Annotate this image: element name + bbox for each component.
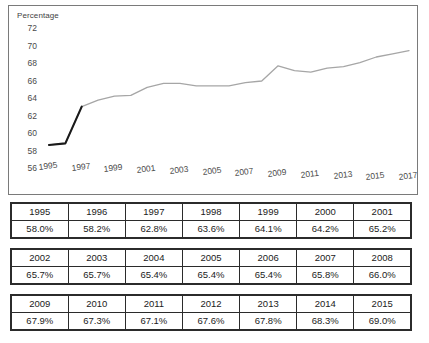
table-cell-year: 2002 [11,249,68,267]
table-cell-value: 65.2% [354,221,411,239]
table-cell-year: 2014 [297,295,354,313]
table-cell-year: 1996 [68,203,125,221]
table-cell-value: 65.8% [297,267,354,285]
table-cell-year: 2007 [297,249,354,267]
table-cell-value: 66.0% [354,267,411,285]
table-row-values: 67.9%67.3%67.1%67.6%67.8%68.3%69.0% [11,313,411,331]
table-cell-year: 2011 [125,295,182,313]
table-cell-year: 2005 [182,249,239,267]
chart-panel: Percentage 727068666462605856 1995199719… [8,5,418,195]
table-cell-year: 1999 [240,203,297,221]
line-chart-plot [9,6,419,196]
table-row-values: 65.7%65.7%65.4%65.4%65.4%65.8%66.0% [11,267,411,285]
data-table-block-2: 2002200320042005200620072008 65.7%65.7%6… [10,248,412,285]
table-cell-value: 64.2% [297,221,354,239]
table-cell-year: 1997 [125,203,182,221]
table-cell-year: 2012 [182,295,239,313]
table-cell-year: 2009 [11,295,68,313]
table-cell-year: 2000 [297,203,354,221]
table-cell-year: 2004 [125,249,182,267]
table-row-years: 2009201020112012201320142015 [11,295,411,313]
table-cell-value: 67.3% [68,313,125,331]
table-cell-year: 2015 [354,295,411,313]
table-cell-value: 67.1% [125,313,182,331]
table-cell-value: 64.1% [240,221,297,239]
table-cell-year: 2010 [68,295,125,313]
table-cell-value: 58.2% [68,221,125,239]
table-cell-value: 67.9% [11,313,68,331]
table-cell-value: 65.4% [125,267,182,285]
table-cell-value: 68.3% [297,313,354,331]
table-cell-value: 65.7% [11,267,68,285]
table-cell-year: 2008 [354,249,411,267]
table-cell-year: 2001 [354,203,411,221]
table-row-values: 58.0%58.2%62.8%63.6%64.1%64.2%65.2% [11,221,411,239]
table-row-years: 2002200320042005200620072008 [11,249,411,267]
table-cell-year: 2013 [240,295,297,313]
table-cell-value: 62.8% [125,221,182,239]
table-cell-value: 65.4% [240,267,297,285]
table-cell-year: 1995 [11,203,68,221]
data-table-block-1: 1995199619971998199920002001 58.0%58.2%6… [10,202,412,239]
table-cell-year: 2006 [240,249,297,267]
table-cell-value: 65.4% [182,267,239,285]
table-row-years: 1995199619971998199920002001 [11,203,411,221]
series-line-percentage [49,51,409,145]
table-cell-value: 58.0% [11,221,68,239]
table-cell-year: 2003 [68,249,125,267]
table-cell-value: 65.7% [68,267,125,285]
data-table-block-3: 2009201020112012201320142015 67.9%67.3%6… [10,294,412,331]
series-line-highlight-segment [49,107,82,145]
table-cell-value: 67.6% [182,313,239,331]
table-cell-value: 67.8% [240,313,297,331]
table-cell-value: 63.6% [182,221,239,239]
table-cell-value: 69.0% [354,313,411,331]
table-cell-year: 1998 [182,203,239,221]
